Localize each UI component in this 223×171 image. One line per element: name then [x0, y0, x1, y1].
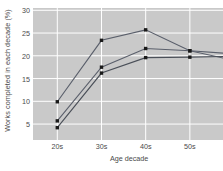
data-point-marker: [100, 65, 103, 68]
chart-screenshot: Works completed in each decade (%) 51015…: [0, 0, 223, 171]
plot-area: [33, 8, 223, 140]
y-axis-title: Works completed in each decade (%): [0, 0, 14, 140]
y-axis-tick-label: 25: [22, 29, 30, 38]
data-point-marker: [100, 71, 103, 74]
line-chart-svg: [33, 8, 223, 140]
data-point-marker: [144, 47, 147, 50]
data-point-marker: [100, 39, 103, 42]
y-axis-tick-label: 20: [22, 51, 30, 60]
x-axis-tick-label: 30s: [96, 142, 108, 151]
x-axis-tick-label: 40s: [140, 142, 152, 151]
data-point-marker: [188, 55, 191, 58]
y-axis-title-label: Works completed in each decade (%): [3, 9, 12, 132]
y-axis-tick-label: 15: [22, 74, 30, 83]
x-axis-title: Age decade: [110, 154, 210, 163]
data-point-marker: [56, 100, 59, 103]
data-point-marker: [56, 126, 59, 129]
y-axis-tick-labels: 51015202530: [13, 8, 32, 140]
data-point-marker: [144, 28, 147, 31]
y-axis-tick-label: 10: [22, 97, 30, 106]
y-axis-tick-label: 30: [22, 6, 30, 15]
y-axis-tick-label: 5: [26, 120, 30, 129]
x-axis-tick-label: 20s: [52, 142, 64, 151]
data-point-marker: [56, 119, 59, 122]
x-axis-tick-label: 50s: [184, 142, 196, 151]
x-axis-tick-labels: 20s30s40s50s: [33, 141, 223, 153]
data-point-marker: [188, 49, 191, 52]
data-point-marker: [144, 56, 147, 59]
